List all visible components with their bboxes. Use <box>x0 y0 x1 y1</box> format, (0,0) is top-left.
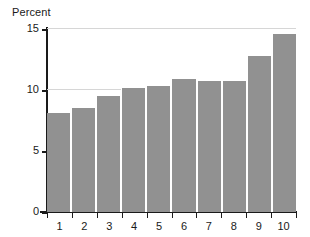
plot-area <box>47 29 296 212</box>
x-tick-label: 2 <box>72 219 97 235</box>
bar-series <box>47 29 296 212</box>
bar <box>96 96 121 212</box>
x-tick-label: 6 <box>172 219 197 235</box>
x-tick-mark <box>147 213 148 218</box>
x-tick-label: 8 <box>221 219 246 235</box>
x-tick-mark <box>221 213 222 218</box>
bar <box>47 113 71 212</box>
x-tick-mark <box>122 213 123 218</box>
y-tick-label: 0 <box>33 205 39 217</box>
bar <box>121 88 146 212</box>
bar <box>146 86 171 212</box>
bar <box>71 108 96 212</box>
x-tick-mark <box>246 213 247 218</box>
chart-title: Percent <box>12 6 51 18</box>
y-tick-label: 5 <box>33 144 39 156</box>
bar <box>247 56 272 212</box>
x-axis-labels: 12345678910 <box>47 219 296 235</box>
bar <box>171 79 196 212</box>
x-tick-label: 4 <box>122 219 147 235</box>
x-tick-mark <box>47 213 48 218</box>
x-tick-label: 1 <box>47 219 72 235</box>
x-tick-label: 5 <box>147 219 172 235</box>
x-tick-mark <box>196 213 197 218</box>
bar <box>272 34 296 212</box>
y-tick-label: 15 <box>27 22 39 34</box>
x-tick-mark <box>296 213 297 218</box>
bar-chart: Percent 051015 12345678910 <box>0 0 310 237</box>
x-tick-label: 7 <box>196 219 221 235</box>
x-tick-label: 9 <box>246 219 271 235</box>
x-tick-mark <box>271 213 272 218</box>
x-tick-mark <box>72 213 73 218</box>
bar <box>197 81 222 212</box>
x-tick-label: 3 <box>97 219 122 235</box>
bar <box>222 81 247 212</box>
x-tick-label: 10 <box>271 219 296 235</box>
y-tick-label: 10 <box>27 83 39 95</box>
x-tick-mark <box>172 213 173 218</box>
x-tick-mark <box>97 213 98 218</box>
